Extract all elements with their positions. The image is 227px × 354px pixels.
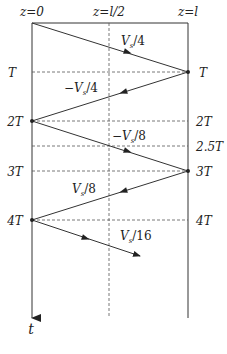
wave-lines bbox=[32, 23, 188, 256]
left-label-3T: 3T bbox=[7, 165, 24, 179]
point-2T bbox=[30, 119, 34, 123]
wave-4-line bbox=[32, 171, 188, 220]
arrow-left-icon bbox=[118, 187, 127, 195]
wave-1-label: Vs/4 bbox=[121, 34, 145, 50]
label-z0: z=0 bbox=[19, 5, 44, 19]
wave-1-line bbox=[32, 23, 188, 72]
left-label-T: T bbox=[8, 66, 17, 80]
right-label-3T: 3T bbox=[196, 165, 213, 179]
point-3T bbox=[186, 169, 190, 173]
position-labels: z=0 z=l/2 z=l bbox=[19, 5, 198, 19]
point-T bbox=[186, 70, 190, 74]
arrow-left-icon bbox=[118, 88, 127, 96]
bounce-diagram: z=0 z=l/2 z=l T 2T 3T 4T T 2T 2.5T 3T 4T bbox=[0, 0, 227, 354]
arrow-right-icon bbox=[81, 234, 90, 242]
label-zmid: z=l/2 bbox=[92, 5, 125, 19]
wave-2-line bbox=[32, 72, 188, 121]
wave-labels: Vs/4 −Vs/4 −Vs/8 Vs/8 Vs/16 bbox=[64, 34, 152, 245]
left-label-4T: 4T bbox=[6, 214, 24, 228]
label-zl: z=l bbox=[177, 5, 198, 19]
right-label-2.5T: 2.5T bbox=[195, 140, 224, 154]
left-label-2T: 2T bbox=[6, 115, 24, 129]
point-4T bbox=[30, 218, 34, 222]
right-label-T: T bbox=[199, 66, 208, 80]
time-labels-right: T 2T 2.5T 3T 4T bbox=[195, 66, 224, 228]
time-axis-label: t bbox=[28, 321, 34, 337]
right-label-4T: 4T bbox=[195, 214, 213, 228]
wave-4-label: Vs/8 bbox=[72, 182, 96, 198]
wave-2-label: −Vs/4 bbox=[64, 81, 98, 97]
wave-5-label: Vs/16 bbox=[120, 229, 152, 245]
time-labels-left: T 2T 3T 4T bbox=[6, 66, 24, 228]
arrow-right-icon bbox=[123, 147, 132, 155]
wave-3-label: −Vs/8 bbox=[112, 129, 146, 145]
right-label-2T: 2T bbox=[195, 115, 213, 129]
